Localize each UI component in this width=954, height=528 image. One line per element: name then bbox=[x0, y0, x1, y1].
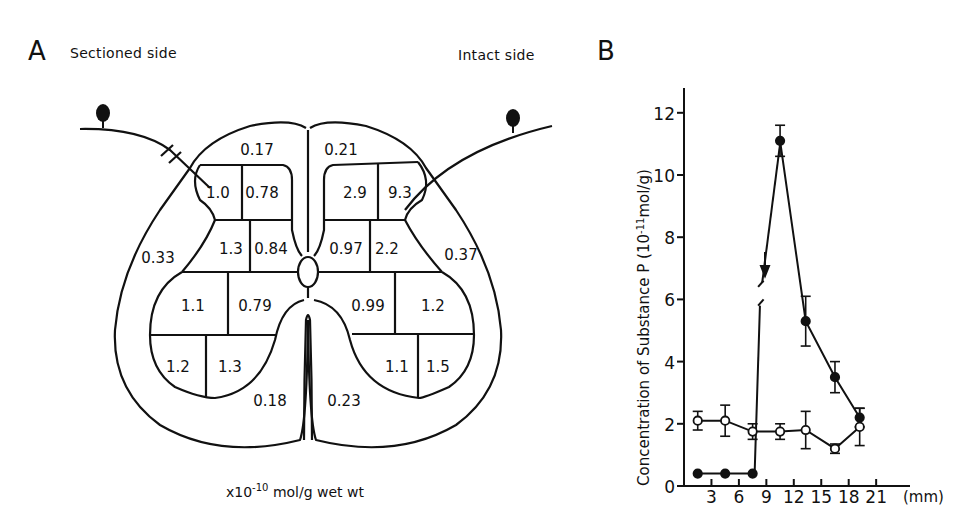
sectioned-dorsal-root bbox=[80, 129, 210, 188]
unit-label: x10-10 mol/g wet wt bbox=[226, 482, 364, 500]
x-tick-label: 15 bbox=[810, 487, 832, 507]
x-tick-label: 21 bbox=[865, 487, 887, 507]
value-lamina-right-outer: 9.3 bbox=[388, 184, 412, 202]
data-point-open bbox=[694, 416, 702, 424]
value-ventral-lower-right-outer: 1.5 bbox=[426, 358, 450, 376]
series-open bbox=[693, 405, 865, 453]
data-point-filled bbox=[831, 373, 839, 381]
y-tick-label: 12 bbox=[653, 104, 675, 124]
value-lamina-right-inner: 2.9 bbox=[343, 184, 367, 202]
value-ventral-upper-left-inner: 0.79 bbox=[238, 297, 271, 315]
data-point-filled bbox=[776, 137, 784, 145]
data-point-open bbox=[855, 423, 863, 431]
value-dorsal-column-right: 0.21 bbox=[324, 141, 357, 159]
sectioned-ganglion-icon bbox=[96, 104, 110, 122]
y-axis-label: Concentration of Substance P (10-11mol/g… bbox=[635, 169, 654, 486]
spinal-cord-diagram: 0.17 0.21 1.0 0.78 2.9 9.3 0.33 0.37 1.3… bbox=[0, 0, 600, 528]
data-point-filled bbox=[748, 469, 756, 477]
value-ventral-white-left: 0.18 bbox=[253, 392, 286, 410]
x-tick-label: 9 bbox=[761, 487, 772, 507]
unit-exponent: -10 bbox=[252, 482, 268, 493]
y-tick-label: 8 bbox=[664, 228, 675, 248]
value-lateral-right: 0.37 bbox=[444, 246, 477, 264]
series-filled bbox=[694, 125, 865, 478]
value-ventral-white-right: 0.23 bbox=[327, 392, 360, 410]
data-point-open bbox=[748, 427, 756, 435]
data-point-filled bbox=[801, 317, 809, 325]
x-tick-label: 12 bbox=[783, 487, 805, 507]
data-point-open bbox=[776, 427, 784, 435]
unit-prefix: x10 bbox=[226, 484, 252, 500]
value-lamina-left-inner: 0.78 bbox=[245, 184, 278, 202]
value-lamina-left-outer: 1.0 bbox=[206, 184, 230, 202]
data-point-filled bbox=[694, 469, 702, 477]
y-tick-label: 2 bbox=[664, 415, 675, 435]
unit-suffix: mol/g wet wt bbox=[268, 484, 364, 500]
intact-ganglion-icon bbox=[506, 109, 520, 127]
data-point-open bbox=[801, 426, 809, 434]
data-point-open bbox=[721, 416, 729, 424]
y-tick-label: 10 bbox=[653, 166, 675, 186]
data-point-filled bbox=[721, 469, 729, 477]
value-lateral-left: 0.33 bbox=[141, 249, 174, 267]
value-mid-right-inner: 0.97 bbox=[329, 240, 362, 258]
value-mid-left-inner: 0.84 bbox=[254, 240, 287, 258]
value-ventral-lower-right-inner: 1.1 bbox=[385, 358, 409, 376]
value-ventral-upper-right-outer: 1.2 bbox=[421, 297, 445, 315]
x-tick-label: 3 bbox=[706, 487, 717, 507]
substance-p-chart: 024681012 36912151821 (mm) Concentration… bbox=[600, 0, 954, 528]
value-ventral-lower-left-outer: 1.2 bbox=[166, 358, 190, 376]
value-ventral-upper-right-inner: 0.99 bbox=[351, 297, 384, 315]
y-tick-label: 0 bbox=[664, 477, 675, 497]
y-tick-label: 4 bbox=[664, 353, 675, 373]
x-unit-label: (mm) bbox=[903, 488, 944, 506]
y-tick-label: 6 bbox=[664, 290, 675, 310]
value-mid-right-outer: 2.2 bbox=[375, 240, 399, 258]
value-dorsal-column-left: 0.17 bbox=[240, 141, 273, 159]
value-mid-left-outer: 1.3 bbox=[219, 240, 243, 258]
value-ventral-lower-left-inner: 1.3 bbox=[218, 358, 242, 376]
x-tick-label: 6 bbox=[733, 487, 744, 507]
data-point-open bbox=[831, 444, 839, 452]
x-tick-label: 18 bbox=[838, 487, 860, 507]
value-ventral-upper-left-outer: 1.1 bbox=[181, 297, 205, 315]
